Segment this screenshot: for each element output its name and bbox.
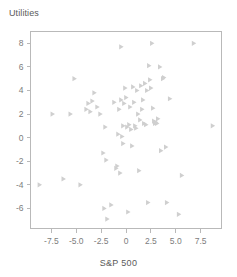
y-tick-label: 6 xyxy=(19,62,24,72)
data-point xyxy=(139,83,143,88)
data-point xyxy=(159,148,163,153)
data-point xyxy=(109,202,113,207)
plot-frame xyxy=(31,32,222,229)
data-point xyxy=(101,150,105,155)
x-tick-label: 5.0 xyxy=(170,236,182,246)
x-tick-label: -2.5 xyxy=(94,236,109,246)
data-point xyxy=(141,97,145,102)
data-point xyxy=(130,143,134,148)
data-point xyxy=(116,132,120,137)
plot-area: 86420-2-4-6-7.5-5.0-2.502.55.07.5 xyxy=(0,0,237,277)
data-point xyxy=(165,200,169,205)
data-point xyxy=(62,176,66,181)
data-point xyxy=(102,206,106,211)
data-point xyxy=(90,98,94,103)
data-point xyxy=(156,116,160,121)
data-point xyxy=(121,141,125,146)
data-point xyxy=(112,100,116,105)
data-point xyxy=(84,107,88,112)
data-point xyxy=(126,209,130,214)
data-point xyxy=(151,106,155,111)
data-point xyxy=(127,122,131,127)
data-point xyxy=(158,64,162,69)
x-tick-label: -5.0 xyxy=(69,236,84,246)
y-tick-label: -6 xyxy=(16,203,24,213)
x-tick-label: 2.5 xyxy=(145,236,157,246)
data-point xyxy=(38,182,42,187)
y-tick-label: 4 xyxy=(19,85,24,95)
data-point xyxy=(132,100,136,105)
data-point xyxy=(131,84,135,89)
scatter-chart: Utilities 86420-2-4-6-7.5-5.0-2.502.55.0… xyxy=(0,0,237,277)
data-point xyxy=(150,41,154,46)
data-point xyxy=(129,127,133,132)
data-point xyxy=(211,123,215,128)
data-point xyxy=(140,107,144,112)
data-point xyxy=(123,86,127,91)
data-point xyxy=(88,109,92,114)
data-point xyxy=(135,88,139,93)
data-point xyxy=(104,157,108,162)
data-point xyxy=(121,123,125,128)
data-point xyxy=(98,111,102,116)
data-point xyxy=(192,41,196,46)
data-point xyxy=(128,104,132,109)
data-point xyxy=(138,117,142,122)
data-point xyxy=(120,134,124,139)
data-point xyxy=(78,182,82,187)
data-point xyxy=(143,81,147,86)
data-point xyxy=(117,107,121,112)
data-point xyxy=(148,77,152,82)
x-tick-label: 7.5 xyxy=(195,236,207,246)
data-point xyxy=(124,95,128,100)
data-point xyxy=(119,44,123,49)
data-point xyxy=(145,88,149,93)
data-point xyxy=(168,96,172,101)
y-tick-label: -4 xyxy=(16,180,24,190)
x-tick-label: 0 xyxy=(124,236,129,246)
y-axis-label: Utilities xyxy=(9,8,39,18)
data-point xyxy=(177,212,181,217)
data-point xyxy=(72,76,76,81)
x-tick-label: -7.5 xyxy=(44,236,59,246)
data-point xyxy=(105,216,109,221)
data-point xyxy=(95,104,99,109)
data-point xyxy=(144,122,148,127)
data-point xyxy=(164,145,168,150)
data-point xyxy=(68,111,72,116)
data-point xyxy=(92,90,96,95)
data-point xyxy=(149,86,153,91)
x-axis-label: S&P 500 xyxy=(0,258,237,268)
data-point xyxy=(137,168,141,173)
y-tick-label: 8 xyxy=(19,38,24,48)
data-point xyxy=(136,111,140,116)
data-point xyxy=(103,124,107,129)
data-point xyxy=(122,101,126,106)
data-point xyxy=(180,173,184,178)
y-tick-label: 2 xyxy=(19,109,24,119)
data-point xyxy=(51,111,55,116)
data-point xyxy=(146,200,150,205)
y-tick-label: -2 xyxy=(16,156,24,166)
data-point xyxy=(118,170,122,175)
y-tick-label: 0 xyxy=(19,133,24,143)
data-point xyxy=(147,63,151,68)
data-point xyxy=(86,101,90,106)
